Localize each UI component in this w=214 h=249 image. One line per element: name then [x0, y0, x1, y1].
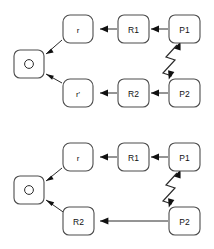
node-rprime-top[interactable]: r' [63, 79, 93, 107]
node-p2-top-label: P2 [179, 89, 190, 99]
node-r-bottom-label: r [77, 154, 80, 163]
node-r2-top[interactable]: R2 [118, 79, 149, 107]
arrowhead-zigzag-down-to-p2-bottom [168, 198, 174, 207]
node-rprime-top-label: r' [76, 90, 81, 99]
arrowhead-zigzag-down-to-p2 [168, 70, 174, 79]
node-r-top[interactable]: r [63, 15, 93, 43]
node-p1-top[interactable]: P1 [169, 15, 200, 43]
node-p2-top[interactable]: P2 [169, 79, 200, 107]
node-p1-bottom[interactable]: P1 [169, 143, 200, 171]
node-p1-bottom-label: P1 [179, 153, 190, 163]
arrowhead-rprime-to-o [46, 74, 54, 80]
arrowhead-p1-to-r1-bottom [151, 154, 159, 161]
diagram-canvas: O r r' R1 R2 [0, 0, 214, 249]
node-r2-bottom[interactable]: R2 [63, 207, 94, 235]
node-r1-bottom-label: R1 [128, 153, 139, 163]
node-r-bottom[interactable]: r [63, 143, 93, 171]
node-p2-bottom[interactable]: P2 [169, 207, 200, 235]
arrowhead-r-to-o [46, 49, 54, 54]
node-r-top-label: r [77, 26, 80, 35]
node-p2-bottom-label: P2 [179, 217, 190, 227]
node-r1-top-label: R1 [128, 25, 139, 35]
node-o-top[interactable]: O [14, 50, 44, 78]
arrowhead-r-to-o-bottom [46, 176, 54, 181]
arrowhead-p1-to-r1 [151, 26, 159, 33]
arrowhead-r2-to-rprime [100, 90, 108, 97]
node-r1-bottom[interactable]: R1 [118, 143, 149, 171]
figure-root: O r r' R1 R2 [0, 0, 214, 249]
arrowhead-r1-to-r [100, 26, 108, 33]
node-r2-bottom-label: R2 [73, 217, 84, 227]
node-r1-top[interactable]: R1 [118, 15, 149, 43]
node-o-bottom[interactable]: O [14, 176, 44, 204]
node-r2-top-label: R2 [128, 89, 139, 99]
arrowhead-p2-to-r2-bottom [100, 218, 108, 225]
bottom-diagram: O r R1 P1 R2 [14, 143, 200, 235]
top-diagram: O r r' R1 R2 [14, 15, 200, 107]
arrowhead-p2-to-r2 [151, 90, 159, 97]
arrowhead-r1-to-r-bottom [100, 154, 108, 161]
node-p1-top-label: P1 [179, 25, 190, 35]
